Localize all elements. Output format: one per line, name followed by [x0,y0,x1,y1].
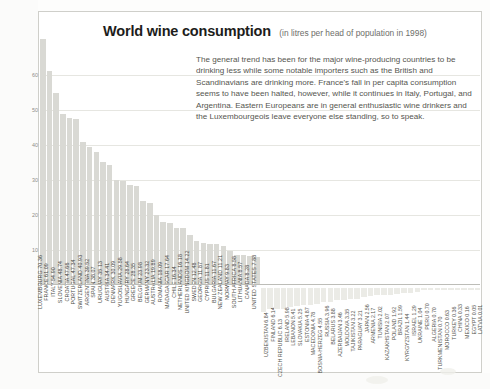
bar-column[interactable]: URUGUAY 35.13 [100,33,106,285]
bar-column[interactable]: ITALY 54.90 [53,33,59,285]
small-bar [468,288,474,290]
small-column[interactable]: CZECH REPUBLIC 6.13 [274,288,280,372]
small-column[interactable]: ALGERIA 0.70 [428,288,434,372]
bar-column-empty [261,33,267,285]
small-bar [381,288,387,295]
small-bar [341,288,347,300]
small-bar [354,288,360,299]
small-column[interactable]: TAJIKISTAN 3.22 [348,288,354,372]
small-column[interactable]: TUNISIA 2.02 [374,288,380,372]
small-column[interactable]: UZBEKISTAN 6.84 [261,288,267,372]
small-column-empty [127,288,133,372]
bar-column[interactable]: SPAIN 38.07 [94,33,100,285]
small-column[interactable]: RUSSIA 3.96 [321,288,327,372]
bar-column[interactable]: ROMANIA 18.09 [160,33,166,285]
small-column[interactable]: BOSNIA-HERZEG 4.55 [314,288,320,372]
bar-column[interactable]: FRANCE 61.09 [47,33,53,285]
small-column[interactable]: KAZAKHSTAN 2.07 [381,288,387,372]
small-column[interactable]: UKRAINE 1.04 [415,288,421,372]
small-column-empty [234,288,240,372]
small-column[interactable]: MACEDONIA 4.78 [308,288,314,372]
bar-column[interactable]: NORWAY 9.83 [227,33,233,285]
small-column-empty [227,288,233,372]
bar-column[interactable]: NETHERLANDS 16.18 [180,33,186,285]
bar-column[interactable]: NEW ZEALAND 11.21 [221,33,227,285]
small-column[interactable]: LEBANON 5.41 [287,288,293,372]
small-bar [294,288,300,306]
bar: CROATIA 47.66 [67,118,73,285]
y-axis-tick-label: 30 [24,177,38,183]
bar-column-empty [475,33,481,285]
bar-column[interactable]: LITHUANIA 8.57 [241,33,247,285]
bar-column[interactable]: AUSTRIA 34.41 [107,33,113,285]
bar-column[interactable]: GEORGIA 11.87 [201,33,207,285]
small-bar [415,288,421,292]
small-column[interactable]: TURKMENISTAN 0.70 [435,288,441,372]
small-column-empty [167,288,173,372]
bar-column[interactable]: CYPRUS 11.81 [207,33,213,285]
small-column[interactable]: MOROCCO 0.63 [441,288,447,372]
bar-column[interactable]: DENMARK 30.09 [114,33,120,285]
bar-column[interactable]: ARGENTINA 39.52 [87,33,93,285]
small-column[interactable]: KYRGYZSTAN 1.44 [401,288,407,372]
bar-column[interactable]: BULGARIA 11.67 [214,33,220,285]
small-column[interactable]: SLOVAKIA 5.25 [294,288,300,372]
bar: CANADA 8.28 [247,256,253,285]
small-column-empty [80,288,86,372]
bar-column[interactable]: GERMANY 23.32 [147,33,153,285]
small-column-empty [221,288,227,372]
bar-column[interactable]: SWEDEN 12.48 [194,33,200,285]
small-column-empty [114,288,120,372]
bar-column[interactable]: PORTUGAL 47.34 [73,33,79,285]
small-column[interactable]: IRELAND 5.98 [281,288,287,372]
small-column[interactable]: EGYPT 0.05 [468,288,474,372]
small-column[interactable]: PARAGUAY 3.21 [354,288,360,372]
bar-column[interactable]: CHILE 16.34 [174,33,180,285]
small-column[interactable]: PERU 0.70 [421,288,427,372]
small-column-empty [174,288,180,372]
bar-column-empty [374,33,380,285]
small-column[interactable]: ESTONIA 4.87 [301,288,307,372]
small-bar [428,288,434,290]
small-bar [314,288,320,304]
small-column-empty [40,288,46,372]
bar-column[interactable]: BELGIUM 23.98 [140,33,146,285]
bar-column[interactable]: LUXEMBOURG 70.36 [40,33,46,285]
bar-column-empty [321,33,327,285]
small-column-empty [94,288,100,372]
small-column[interactable]: TURKEY 0.36 [448,288,454,372]
bar-column[interactable]: GREECE 28.35 [134,33,140,285]
scanned-page: World wine consumption (in litres per he… [0,0,490,389]
bar-column[interactable]: UNITED KINGDOM 14.22 [187,33,193,285]
small-column-empty [120,288,126,372]
bar: NEW ZEALAND 11.21 [221,246,227,285]
page-gutter-bottom [0,373,490,389]
small-column[interactable]: JAPAN 2.56 [361,288,367,372]
small-bar [334,288,340,300]
small-column[interactable]: MEXICO 0.16 [461,288,467,372]
bar-column[interactable]: SOUTH AFRICA 8.58 [234,33,240,285]
bar-column[interactable]: HUNGARY 28.64 [127,33,133,285]
small-column[interactable]: FINLAND 6.14 [267,288,273,372]
bar-column[interactable]: SLOVENIA 48.74 [60,33,66,285]
small-column[interactable]: ARMENIA 2.17 [368,288,374,372]
bar-column-empty [394,33,400,285]
small-column[interactable]: BRAZIL 1.59 [394,288,400,372]
small-column-empty [194,288,200,372]
small-column[interactable]: POLAND 1.92 [388,288,394,372]
bar-column[interactable]: SWITZERLAND 40.93 [80,33,86,285]
bar-column[interactable]: MADAGASCAR 17.64 [167,33,173,285]
small-column[interactable]: LATVIA 0.01 [475,288,481,372]
bar-column[interactable]: CANADA 8.28 [247,33,253,285]
small-bar [301,288,307,305]
bar-column[interactable]: AUSTRALIA 19.89 [154,33,160,285]
small-column[interactable]: CHINA 0.33 [455,288,461,372]
small-column[interactable]: ISRAEL 1.29 [408,288,414,372]
small-column[interactable]: MOLDOVA 3.35 [341,288,347,372]
small-column[interactable]: AZERBAIJAN 3.46 [334,288,340,372]
bar-column[interactable]: CROATIA 47.66 [67,33,73,285]
bar-column[interactable]: YUGOSLAVIA 29.58 [120,33,126,285]
bar: SOUTH AFRICA 8.58 [234,255,240,285]
small-column[interactable]: BELARUS 3.88 [328,288,334,372]
bar-column[interactable]: UNITED STATES 7.88 [254,33,260,285]
